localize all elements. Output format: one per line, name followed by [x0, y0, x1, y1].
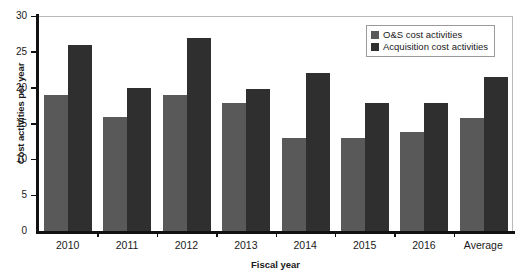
bar: [424, 103, 448, 231]
bar: [306, 73, 330, 231]
legend-swatch-os-icon: [371, 31, 379, 39]
y-axis-tick-label: 30: [16, 10, 27, 22]
bar: [127, 88, 151, 231]
bar: [246, 89, 270, 231]
y-axis-tick-label: 15: [16, 118, 27, 130]
legend-label-acquisition: Acquisition cost activities: [383, 41, 488, 53]
y-axis-tick-mark: [31, 159, 38, 161]
legend-item: O&S cost activities: [371, 29, 488, 41]
y-axis-tick-label: 25: [16, 46, 27, 58]
bar: [103, 117, 127, 231]
x-axis-tick-mark: [454, 231, 455, 237]
bar: [68, 45, 92, 231]
legend-swatch-acquisition-icon: [371, 43, 379, 51]
bar: [460, 118, 484, 231]
y-axis-tick: 15: [0, 118, 38, 130]
chart-legend: O&S cost activities Acquisition cost act…: [366, 25, 495, 57]
bar: [187, 38, 211, 232]
y-axis-tick-mark: [31, 16, 38, 18]
bar: [365, 103, 389, 231]
x-axis-tick-mark: [394, 231, 395, 237]
bar: [341, 138, 365, 231]
y-axis-tick-mark: [31, 195, 38, 197]
y-axis-tick: 0: [0, 225, 38, 237]
bar-group: [38, 16, 97, 231]
y-axis-tick: 5: [0, 189, 38, 201]
bar: [163, 95, 187, 231]
x-axis-tick-mark: [216, 231, 217, 237]
x-axis-tick-mark: [335, 231, 336, 237]
bar: [222, 103, 246, 231]
y-axis-tick: 30: [0, 10, 38, 22]
bar: [484, 77, 508, 231]
y-axis-tick: 10: [0, 153, 38, 165]
bar-group: [157, 16, 216, 231]
bar-group: [97, 16, 156, 231]
x-axis-tick-mark: [157, 231, 158, 237]
x-axis-tick-mark: [97, 231, 98, 237]
legend-item: Acquisition cost activities: [371, 41, 488, 53]
bar-group: [216, 16, 275, 231]
bar: [44, 95, 68, 231]
y-axis-tick-label: 0: [21, 225, 27, 237]
bar-group: [276, 16, 335, 231]
bar: [282, 138, 306, 231]
y-axis-tick-label: 20: [16, 82, 27, 94]
legend-label-os: O&S cost activities: [383, 29, 462, 41]
x-axis-title: Fiscal year: [38, 259, 513, 270]
y-axis-title: Cost activities per year: [15, 14, 26, 214]
bar: [400, 132, 424, 231]
y-axis-tick-mark: [31, 87, 38, 89]
x-axis-tick-label: Average: [443, 239, 523, 251]
y-axis-tick: 20: [0, 82, 38, 94]
bar-chart: Cost activities per year 051015202530 20…: [0, 0, 525, 280]
y-axis-tick-label: 10: [16, 153, 27, 165]
x-axis-tick-mark: [276, 231, 277, 237]
y-axis-tick-mark: [31, 123, 38, 125]
y-axis-tick: 25: [0, 46, 38, 58]
y-axis-tick-label: 5: [21, 189, 27, 201]
y-axis-tick-mark: [31, 51, 38, 53]
